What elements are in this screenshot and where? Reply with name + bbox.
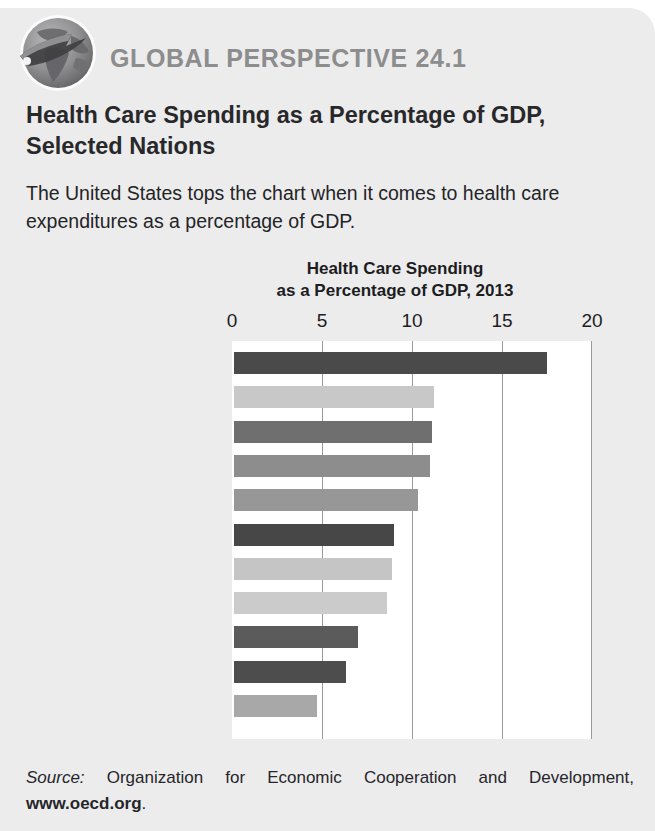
x-axis-tick-label: 15 [480,310,524,332]
bar [234,489,418,511]
bar [234,626,358,648]
chart-title-line-1: Health Care Spending [180,258,610,280]
bar [234,352,547,374]
bar [234,524,394,546]
source-note: Source: Organization for Economic Cooper… [26,765,634,816]
x-axis-tick-label: 0 [210,310,254,332]
chart-title: Health Care Spending as a Percentage of … [180,258,610,303]
globe-icon [14,10,100,96]
intro-paragraph: The United States tops the chart when it… [26,180,634,235]
bar-chart: Health Care Spending as a Percentage of … [0,258,655,758]
bar [234,661,346,683]
source-label: Source: [26,768,85,787]
chart-title-line-2: as a Percentage of GDP, 2013 [180,280,610,302]
x-axis-tick-label: 10 [390,310,434,332]
bar [234,695,317,717]
source-period: . [142,794,147,813]
bar [234,592,387,614]
source-url[interactable]: www.oecd.org [26,794,142,813]
bar [234,386,434,408]
panel-kicker: GLOBAL PERSPECTIVE 24.1 [110,44,467,73]
x-axis-tick-label: 20 [570,310,614,332]
bar [234,455,430,477]
page-title: Health Care Spending as a Percentage of … [26,100,626,163]
panel-header: GLOBAL PERSPECTIVE 24.1 [0,8,655,94]
bar [234,558,392,580]
plot-area [232,341,592,739]
source-text: Organization for Economic Cooperation an… [85,768,634,787]
bar [234,421,432,443]
x-axis-tick-label: 5 [300,310,344,332]
gridline [591,341,592,739]
gridline [502,341,503,739]
